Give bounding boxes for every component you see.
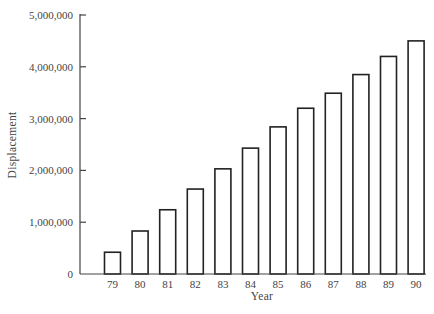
x-tick-label: 85: [273, 278, 285, 290]
x-tick-label: 82: [190, 278, 201, 290]
y-tick-label: 4,000,000: [29, 61, 74, 73]
x-axis: 798081828384858687888990: [80, 274, 426, 290]
bar-85: [270, 127, 286, 274]
x-tick-label: 79: [107, 278, 119, 290]
y-tick-label: 1,000,000: [29, 216, 74, 228]
bars: [105, 41, 425, 274]
bar-79: [105, 252, 121, 274]
bar-86: [298, 108, 314, 274]
y-tick-label: 2,000,000: [29, 164, 74, 176]
x-tick-label: 87: [328, 278, 340, 290]
bar-83: [215, 169, 231, 274]
y-tick-label: 0: [68, 268, 74, 280]
x-tick-label: 89: [383, 278, 395, 290]
x-tick-label: 84: [245, 278, 257, 290]
x-tick-label: 90: [411, 278, 423, 290]
bar-80: [132, 231, 148, 274]
x-tick-label: 81: [162, 278, 173, 290]
x-axis-title: Year: [251, 290, 273, 302]
bar-87: [325, 93, 341, 274]
bar-chart: 01,000,0002,000,0003,000,0004,000,0005,0…: [0, 0, 434, 314]
bar-82: [187, 189, 203, 274]
x-tick-label: 86: [300, 278, 312, 290]
y-tick-label: 3,000,000: [29, 113, 74, 125]
x-tick-label: 83: [217, 278, 229, 290]
y-axis: 01,000,0002,000,0003,000,0004,000,0005,0…: [29, 9, 86, 280]
bar-88: [353, 75, 369, 274]
y-tick-label: 5,000,000: [29, 9, 74, 21]
bar-84: [243, 148, 259, 274]
x-tick-label: 80: [135, 278, 147, 290]
bar-81: [160, 210, 176, 274]
bar-89: [381, 56, 397, 274]
bar-90: [408, 41, 424, 274]
x-tick-label: 88: [355, 278, 367, 290]
y-axis-title: Displacement: [6, 111, 19, 178]
